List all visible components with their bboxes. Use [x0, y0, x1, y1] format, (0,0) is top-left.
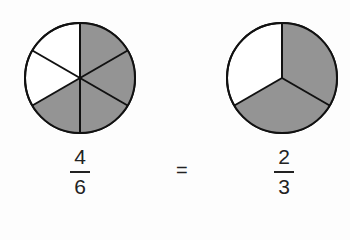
left-denominator: 6 [65, 176, 95, 197]
right-pie-thirds [227, 23, 337, 133]
left-fraction: 4 6 [65, 146, 95, 197]
left-numerator: 4 [65, 146, 95, 167]
right-fraction: 2 3 [269, 146, 299, 197]
left-pie-sixths [25, 23, 135, 133]
equals-sign: = [176, 159, 188, 182]
left-fraction-bar [70, 171, 90, 173]
right-fraction-bar [274, 171, 294, 173]
right-numerator: 2 [269, 146, 299, 167]
right-denominator: 3 [269, 176, 299, 197]
